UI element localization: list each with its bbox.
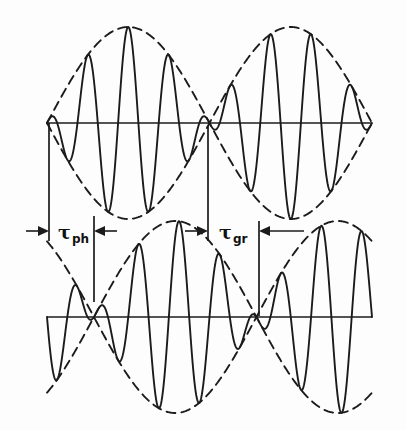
upper-panel [47, 27, 372, 219]
wave-packet-figure: τ ph τ gr [0, 0, 406, 430]
figure-canvas: τ ph τ gr [0, 0, 406, 430]
group-delay-arrowhead-right [259, 226, 270, 236]
reference-lines [49, 123, 259, 316]
phase-delay-label-symbol: τ [58, 221, 71, 243]
lower-panel [47, 221, 372, 413]
lower-envelope-lower [47, 317, 372, 413]
lower-envelope-upper [47, 221, 372, 317]
group-delay-label-symbol: τ [219, 221, 232, 243]
phase-delay-label-subscript: ph [72, 232, 89, 246]
phase-delay-arrowhead-left [38, 226, 49, 236]
phase-delay-arrowhead-right [94, 226, 105, 236]
group-delay-label-subscript: gr [233, 232, 248, 246]
group-delay-arrowhead-left [197, 226, 208, 236]
phase-delay-annotation: τ ph [26, 221, 117, 246]
